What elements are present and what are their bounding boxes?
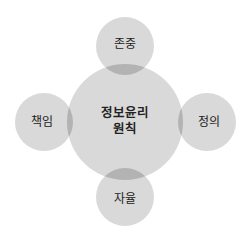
top-label: 존중 (114, 37, 136, 52)
right-label: 정의 (198, 115, 220, 130)
bottom-label: 자율 (114, 192, 136, 207)
center-label: 정보윤리 원칙 (101, 105, 149, 136)
left-label: 책임 (31, 115, 53, 130)
center-label-line1: 정보윤리 (101, 105, 149, 121)
center-label-line2: 원칙 (101, 121, 149, 137)
ethics-principles-diagram: 정보윤리 원칙 존중 정의 자율 책임 (0, 0, 244, 239)
